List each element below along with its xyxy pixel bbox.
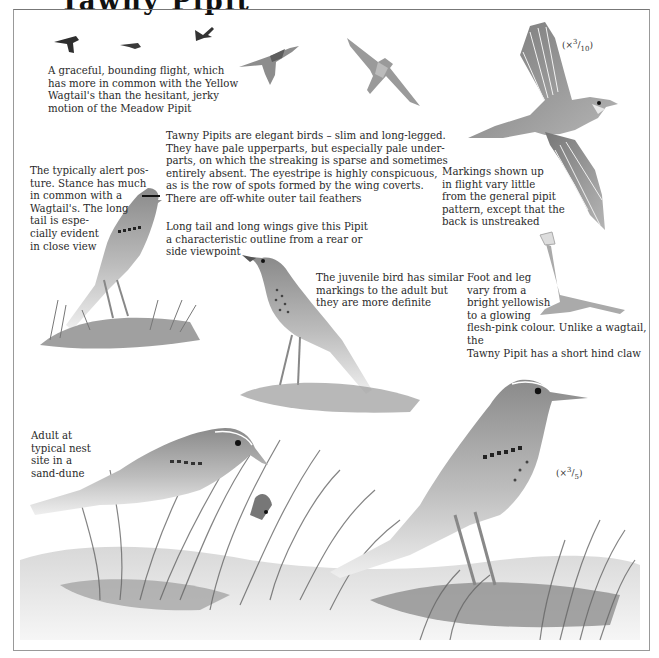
caption-posture: The typically alert pos- ture. Stance ha… bbox=[30, 165, 148, 253]
caption-line: as is the row of spots formed by the win… bbox=[166, 180, 448, 193]
caption-line: typical nest bbox=[31, 443, 91, 456]
caption-line: in flight vary little bbox=[442, 179, 565, 192]
flying-bird-silhouette-2-icon bbox=[120, 43, 141, 49]
scale-numerator: 3 bbox=[573, 38, 577, 46]
scale-suffix: ) bbox=[579, 468, 583, 478]
caption-line: Tawny Pipits are elegant birds – slim an… bbox=[166, 130, 448, 143]
caption-line: Wagtail's. The long bbox=[30, 203, 148, 216]
scale-label-standing: (×3/5) bbox=[556, 466, 583, 481]
caption-line: they are more definite bbox=[316, 297, 464, 310]
caption-line: Long tail and long wings give this Pipit bbox=[166, 221, 368, 234]
caption-description: Tawny Pipits are elegant birds – slim an… bbox=[166, 130, 448, 206]
caption-juvenile: The juvenile bird has similar markings t… bbox=[316, 272, 464, 310]
caption-markings-flight: Markings shown up in flight vary little … bbox=[442, 166, 565, 229]
caption-line: pattern, except that the bbox=[442, 204, 565, 217]
caption-line: A graceful, bounding flight, which bbox=[48, 65, 238, 78]
caption-line: sand-dune bbox=[31, 468, 91, 481]
caption-line: side viewpoint bbox=[166, 246, 368, 259]
caption-line: Markings shown up bbox=[442, 166, 565, 179]
caption-line: vary from a bbox=[467, 285, 659, 298]
caption-line: has more in common with the Yellow bbox=[48, 78, 238, 91]
scale-numerator: 3 bbox=[567, 466, 571, 474]
caption-line: flesh-pink colour. Unlike a wagtail, the bbox=[467, 322, 659, 347]
caption-foot: Foot and leg vary from a bright yellowis… bbox=[467, 272, 659, 360]
caption-line: back is unstreaked bbox=[442, 216, 565, 229]
scale-denominator: 10 bbox=[581, 45, 590, 53]
caption-line: ture. Stance has much bbox=[30, 178, 148, 191]
caption-line: There are off-white outer tail feathers bbox=[166, 193, 448, 206]
caption-line: bright yellowish bbox=[467, 297, 659, 310]
caption-line: to a glowing bbox=[467, 310, 659, 323]
scale-label-flight: (×3/10) bbox=[562, 38, 593, 53]
caption-line: Wagtail's than the hesitant, jerky bbox=[48, 90, 238, 103]
caption-line: in common with a bbox=[30, 190, 148, 203]
caption-line: They have pale upperparts, but especiall… bbox=[166, 143, 448, 156]
caption-line: in close view bbox=[30, 241, 148, 254]
flying-bird-side-icon bbox=[239, 46, 299, 85]
caption-line: motion of the Meadow Pipit bbox=[48, 103, 238, 116]
flying-bird-silhouette-1-icon bbox=[54, 36, 79, 53]
scale-prefix: (× bbox=[556, 468, 567, 478]
caption-line: site in a bbox=[31, 455, 91, 468]
caption-line: parts, on which the streaking is sparse … bbox=[166, 155, 448, 168]
caption-line: markings to the adult but bbox=[316, 285, 464, 298]
caption-flight: A graceful, bounding flight, which has m… bbox=[48, 65, 238, 115]
caption-line: Foot and leg bbox=[467, 272, 659, 285]
caption-outline: Long tail and long wings give this Pipit… bbox=[166, 221, 368, 259]
caption-line: cially evident bbox=[30, 228, 148, 241]
caption-line: entirely absent. The eyestripe is highly… bbox=[166, 168, 448, 181]
caption-line: Tawny Pipit has a short hind claw bbox=[467, 348, 659, 361]
caption-line: tail is espe- bbox=[30, 215, 148, 228]
scale-prefix: (× bbox=[562, 40, 573, 50]
caption-line: The juvenile bird has similar bbox=[316, 272, 464, 285]
scale-suffix: ) bbox=[590, 40, 594, 50]
caption-line: a characteristic outline from a rear or bbox=[166, 234, 368, 247]
flying-bird-below-icon bbox=[347, 38, 420, 106]
flying-bird-silhouette-3-icon bbox=[195, 27, 214, 41]
caption-nest: Adult at typical nest site in a sand-dun… bbox=[31, 430, 91, 480]
sand-dune-ground-icon bbox=[20, 440, 640, 640]
caption-line: The typically alert pos- bbox=[30, 165, 148, 178]
caption-line: from the general pipit bbox=[442, 191, 565, 204]
caption-line: Adult at bbox=[31, 430, 91, 443]
